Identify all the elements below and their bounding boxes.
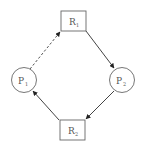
node-subscript: 1 [76,22,79,28]
node-label: R [69,17,76,27]
node-subscript: 2 [75,131,78,137]
edge-r2-p1-assignment [33,91,59,120]
resource-node-r1: R 1 [61,11,86,31]
edge-p1-r1-claim [30,32,60,69]
edge-r1-p2-assignment [86,31,114,68]
edge-p2-r2-request [86,91,114,119]
resource-node-r2: R 2 [60,120,85,140]
node-subscript: 2 [123,81,126,87]
resource-allocation-graph: R 1 P 1 P 2 R 2 [0,0,144,145]
node-label: P [116,76,122,86]
process-node-p2: P 2 [110,68,135,93]
node-label: R [68,126,75,136]
process-node-p1: P 1 [12,68,37,93]
node-label: P [18,76,24,86]
node-subscript: 1 [25,81,28,87]
